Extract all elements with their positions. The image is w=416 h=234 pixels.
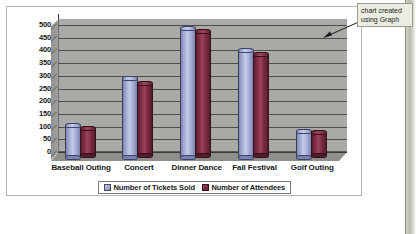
bar-cylinder-base [311, 153, 327, 158]
bar-cylinder-body [80, 128, 96, 155]
bar-cylinder-top [180, 26, 196, 31]
plot-area[interactable] [51, 19, 347, 159]
y-axis-tick-label: 450 [27, 34, 51, 42]
bar-cylinder-top [137, 81, 153, 86]
bar-cylinder-body [238, 50, 254, 157]
y-axis-tick-label: 400 [27, 46, 51, 54]
bar-cylinder-top [311, 130, 327, 135]
bar-cylinder-body [296, 132, 312, 157]
bar-cylinder[interactable] [180, 29, 196, 157]
bar-cylinder-top [253, 52, 269, 57]
page-margin-rule [405, 0, 406, 234]
bar-cylinder-body [65, 125, 81, 157]
x-axis-category-label: Golf Outing [272, 163, 352, 173]
bar-cylinder-body [137, 84, 153, 155]
y-axis-tick-label: 200 [27, 97, 51, 105]
chart-frame[interactable]: 050100150200250300350400450500 Baseball … [6, 6, 362, 196]
bar-cylinder[interactable] [137, 84, 153, 155]
bar-cylinder-body [311, 132, 327, 155]
y-axis-tick-label: 500 [27, 21, 51, 29]
y-axis-tick-label: 100 [27, 123, 51, 131]
bar-cylinder-base [80, 153, 96, 158]
bar-cylinder[interactable] [253, 55, 269, 155]
y-axis-tick-label: 50 [27, 135, 51, 143]
bar-cylinder-base [238, 155, 254, 160]
bar-cylinder[interactable] [311, 132, 327, 155]
bar-cylinder-base [253, 153, 269, 158]
bar-cylinder-top [65, 123, 81, 128]
bar-cylinder-body [253, 55, 269, 155]
chart-legend[interactable]: Number of Tickets SoldNumber of Attendee… [98, 181, 291, 194]
bar-cylinder[interactable] [296, 132, 312, 157]
x-axis-categories: Baseball OutingConcertDinner DanceFall F… [51, 163, 347, 177]
y-axis-tick-label: 250 [27, 85, 51, 93]
y-axis-tick-label: 350 [27, 59, 51, 67]
bar-cylinder-body [122, 79, 138, 157]
legend-label: Number of Tickets Sold [114, 183, 195, 192]
bar-cylinder-top [122, 76, 138, 81]
bar-cylinder-top [296, 129, 312, 134]
legend-item[interactable]: Number of Tickets Sold [104, 183, 195, 192]
bar-cylinder-base [122, 155, 138, 160]
bar-cylinder-base [137, 153, 153, 158]
bar-cylinder-top [238, 48, 254, 53]
bar-cylinder[interactable] [122, 79, 138, 157]
bar-cylinder-body [180, 29, 196, 157]
bar-cylinder[interactable] [195, 31, 211, 155]
bar-cylinder-base [195, 153, 211, 158]
bar-cylinder-top [195, 29, 211, 34]
bar-cylinder-base [296, 155, 312, 160]
y-axis-tick-label: 300 [27, 72, 51, 80]
legend-item[interactable]: Number of Attendees [202, 183, 285, 192]
bar-cylinder[interactable] [80, 128, 96, 155]
legend-label: Number of Attendees [211, 183, 285, 192]
bar-cylinder-top [80, 126, 96, 131]
callout-note[interactable]: chart created using Graph [357, 3, 413, 27]
bar-cylinder-base [65, 155, 81, 160]
bar-cylinder-base [180, 155, 196, 160]
bar-cylinder[interactable] [238, 50, 254, 157]
y-axis-tick-label: 150 [27, 110, 51, 118]
legend-swatch-icon [104, 184, 111, 191]
bar-cylinder[interactable] [65, 125, 81, 157]
bar-cylinder-body [195, 31, 211, 155]
callout-note-text: chart created using Graph [361, 6, 409, 24]
legend-swatch-icon [202, 184, 209, 191]
y-axis-tick-label: 0 [27, 148, 51, 156]
